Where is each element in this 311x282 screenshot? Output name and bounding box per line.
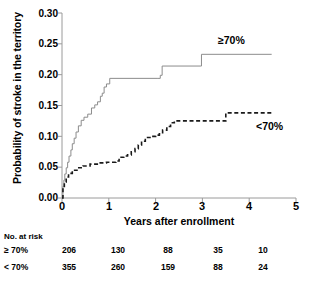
risk-cell-high-2: 88 (153, 245, 183, 255)
kaplan-meier-figure: Probability of stroke in the territory Y… (0, 0, 311, 282)
table-row: ≥ 70% 206 130 88 35 10 (0, 245, 311, 260)
series-line-low-stenosis (62, 113, 272, 198)
risk-row-label-high: ≥ 70% (4, 245, 28, 255)
x-axis-ticks (62, 198, 296, 202)
risk-cell-low-3: 88 (203, 262, 233, 272)
risk-cell-high-0: 206 (54, 245, 84, 255)
risk-cell-low-0: 355 (54, 262, 84, 272)
series-line-high-stenosis (62, 54, 272, 198)
series-label-low-stenosis: <70% (256, 120, 283, 132)
risk-cell-low-2: 159 (153, 262, 183, 272)
y-axis-ticks (58, 13, 62, 198)
risk-cell-high-4: 10 (248, 245, 278, 255)
risk-cell-low-1: 260 (103, 262, 133, 272)
risk-cell-high-3: 35 (203, 245, 233, 255)
risk-cell-low-4: 24 (248, 262, 278, 272)
risk-table-title: No. at risk (4, 232, 43, 241)
axes (62, 13, 296, 198)
risk-row-label-low: < 70% (4, 262, 28, 272)
table-row: < 70% 355 260 159 88 24 (0, 262, 311, 277)
risk-cell-high-1: 130 (103, 245, 133, 255)
series-label-high-stenosis: ≥70% (218, 34, 245, 46)
plot-area (0, 0, 311, 282)
